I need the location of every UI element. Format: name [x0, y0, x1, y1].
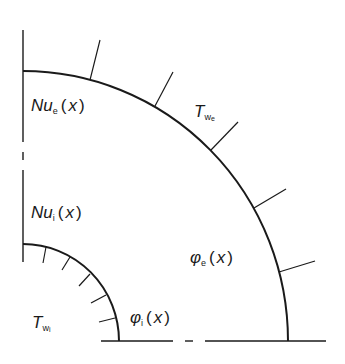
annulus-diagram: [0, 0, 345, 364]
label-t-wi: Twi: [32, 314, 50, 331]
label-nu-e: Nue(x): [31, 97, 87, 114]
label-nu-i: Nui(x): [31, 204, 84, 221]
inner-wall-ticks: [43, 247, 115, 322]
label-phi-i: φi(x): [130, 309, 172, 326]
outer-wall-ticks: [90, 40, 315, 272]
label-phi-e: φe(x): [190, 249, 235, 266]
label-t-we: Twe: [194, 103, 215, 120]
